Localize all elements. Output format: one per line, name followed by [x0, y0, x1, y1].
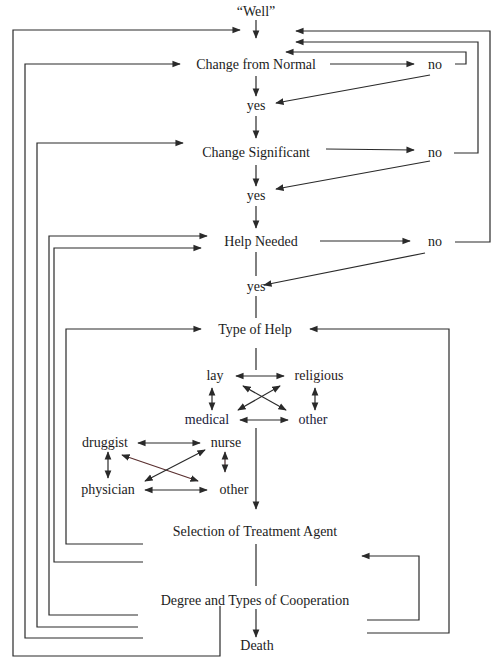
node-no-1: no [428, 57, 442, 73]
node-yes-3: yes [247, 279, 266, 295]
node-religious: religious [295, 368, 344, 384]
node-medical: medical [185, 412, 229, 428]
node-yes-1: yes [247, 98, 266, 114]
node-nurse: nurse [211, 435, 241, 451]
node-type-of-help: Type of Help [218, 322, 292, 338]
node-no-2: no [428, 145, 442, 161]
node-selection-of-treatment-agent: Selection of Treatment Agent [173, 524, 337, 540]
node-well: “Well” [237, 4, 276, 20]
node-yes-2: yes [247, 188, 266, 204]
node-other-medical: other [220, 482, 249, 498]
node-other-help: other [299, 412, 328, 428]
node-degree-and-types-of-cooperation: Degree and Types of Cooperation [161, 593, 349, 609]
node-death: Death [240, 638, 273, 654]
node-druggist: druggist [82, 435, 128, 451]
node-no-3: no [428, 234, 442, 250]
node-help-needed: Help Needed [224, 234, 297, 250]
node-lay: lay [206, 368, 223, 384]
illness-behavior-flow-diagram: “Well” Change from Normal no yes Change … [0, 0, 502, 668]
node-physician: physician [81, 482, 135, 498]
node-change-significant: Change Significant [202, 145, 310, 161]
node-change-from-normal: Change from Normal [196, 57, 316, 73]
